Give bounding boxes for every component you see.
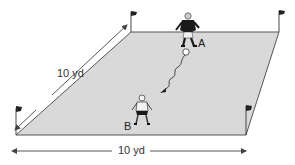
player-a-label: A <box>198 38 205 49</box>
width-dimension-label: 10 yd <box>116 145 147 156</box>
flag-icon <box>131 11 137 32</box>
diagram-svg <box>0 0 295 165</box>
drill-diagram: 10 yd 10 yd A B <box>0 0 295 165</box>
ball-icon <box>183 49 189 55</box>
player-b-label: B <box>124 121 131 132</box>
depth-dimension-label: 10 yd <box>57 68 84 79</box>
flag-icon <box>279 10 285 32</box>
